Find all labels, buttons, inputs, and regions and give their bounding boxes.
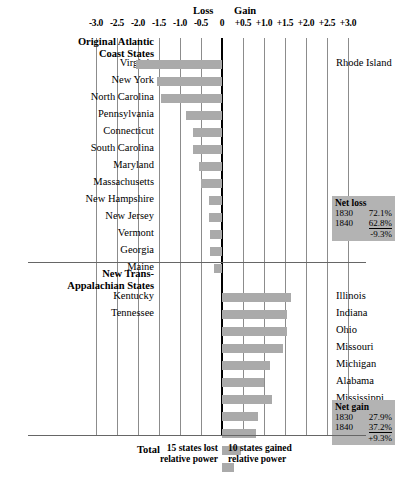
net-loss-year: 1840 xyxy=(335,218,353,229)
right-label-rhode-island: Rhode Island xyxy=(336,57,392,68)
footnote-left: 15 states lostrelative power xyxy=(128,443,218,465)
loss-label: Loss xyxy=(183,5,223,16)
bar-ohio xyxy=(222,361,270,370)
bar-indiana xyxy=(222,344,283,353)
right-label-alabama: Alabama xyxy=(336,375,374,386)
gridline-+2.5 xyxy=(327,38,328,435)
bar-connecticut xyxy=(193,128,222,137)
net-loss-change: -9.3% xyxy=(332,229,395,239)
bar-virginia xyxy=(136,60,222,69)
group-heading-atlantic-line1: Original Atlantic xyxy=(0,36,154,48)
gridline-+0.5 xyxy=(243,38,244,435)
net-gain-year: 1840 xyxy=(335,422,353,433)
net-gain-pct: 27.9% xyxy=(369,412,392,422)
net-gain-box: Net gain183027.9%184037.2%+9.3% xyxy=(332,400,395,445)
bar-new-hampshire xyxy=(209,196,222,205)
bottom-rule xyxy=(28,435,366,436)
relative-power-chart: -3.0-2.5-2.0-1.5-1.0-0.50+0.5+1.0+1.5+2.… xyxy=(0,0,395,477)
right-label-indiana: Indiana xyxy=(336,307,368,318)
bar-tennessee xyxy=(222,310,287,319)
net-loss-title: Net loss xyxy=(332,198,395,208)
group-heading-transappalachian: New Trans-Appalachian States xyxy=(0,268,154,291)
row-label-connecticut: Connecticut xyxy=(0,125,154,136)
footnote-right: 10 states gainedrelative power xyxy=(228,443,338,465)
bar-michigan xyxy=(222,395,272,404)
group-heading-atlantic: Original AtlanticCoast States xyxy=(0,36,154,59)
bar-south-carolina xyxy=(193,145,222,154)
bar-missouri xyxy=(222,378,264,387)
gridline-+1.0 xyxy=(264,38,265,435)
footnote-left-line1: 15 states lost xyxy=(128,443,218,454)
footnote-right-line1: 10 states gained xyxy=(228,443,338,454)
net-gain-title: Net gain xyxy=(332,402,395,412)
row-label-new-jersey: New Jersey xyxy=(0,210,154,221)
group-separator xyxy=(28,262,366,263)
net-loss-pct: 72.1% xyxy=(369,208,392,218)
right-label-illinois: Illinois xyxy=(336,290,366,301)
bar-vermont xyxy=(210,230,222,239)
footnote-left-line2: relative power xyxy=(128,454,218,465)
bar-kentucky xyxy=(222,293,291,302)
row-label-vermont: Vermont xyxy=(0,227,154,238)
net-loss-row: 184062.8% xyxy=(332,218,395,229)
bar-georgia xyxy=(210,247,222,256)
row-label-south-carolina: South Carolina xyxy=(0,142,154,153)
net-loss-row: 183072.1% xyxy=(332,208,395,218)
gain-label: Gain xyxy=(225,5,265,16)
row-label-georgia: Georgia xyxy=(0,244,154,255)
bar-mississippi xyxy=(222,429,256,438)
bar-alabama xyxy=(222,412,258,421)
net-gain-row: 184037.2% xyxy=(332,422,395,433)
row-label-new-hampshire: New Hampshire xyxy=(0,193,154,204)
row-label-pennsylvania: Pennsylvania xyxy=(0,108,154,119)
bar-new-york xyxy=(157,77,222,86)
bar-north-carolina xyxy=(161,94,222,103)
bar-illinois xyxy=(222,327,287,336)
bar-massachusetts xyxy=(201,179,222,188)
right-label-ohio: Ohio xyxy=(336,324,357,335)
right-label-michigan: Michigan xyxy=(336,358,376,369)
row-label-tennessee: Tennessee xyxy=(0,307,154,318)
row-label-maryland: Maryland xyxy=(0,159,154,170)
row-label-massachusetts: Massachusetts xyxy=(0,176,154,187)
gridline--1.5 xyxy=(159,38,160,435)
row-label-north-carolina: North Carolina xyxy=(0,91,154,102)
row-label-virginia: Virginia xyxy=(0,57,154,68)
right-label-missouri: Missouri xyxy=(336,341,373,352)
net-gain-year: 1830 xyxy=(335,412,353,422)
net-loss-box: Net loss183072.1%184062.8%-9.3% xyxy=(332,196,395,241)
net-loss-pct: 62.8% xyxy=(369,218,392,229)
axis-tick-+3.0: +3.0 xyxy=(333,18,363,28)
row-label-new-york: New York xyxy=(0,74,154,85)
row-label-kentucky: Kentucky xyxy=(0,290,154,301)
bar-maryland xyxy=(199,162,222,171)
net-loss-year: 1830 xyxy=(335,208,353,218)
bar-pennsylvania xyxy=(186,111,222,120)
group-heading-transappalachian-line1: New Trans- xyxy=(0,268,154,280)
footnote-right-line2: relative power xyxy=(228,454,338,465)
net-gain-row: 183027.9% xyxy=(332,412,395,422)
bar-maine xyxy=(214,264,222,273)
gridline-+2.0 xyxy=(306,38,307,435)
bar-new-jersey xyxy=(209,213,222,222)
net-gain-pct: 37.2% xyxy=(369,422,392,433)
gridline-+1.5 xyxy=(285,38,286,435)
